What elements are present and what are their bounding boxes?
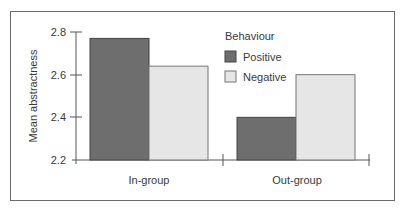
y-tick-label: 2.8 (51, 26, 66, 38)
bar-chart: 2.8 2.6 2.4 2.2 Mean abstractness In-gro… (0, 0, 414, 213)
bars (90, 38, 355, 160)
bar-out-group-positive (237, 117, 296, 160)
y-tick-label: 2.4 (51, 111, 66, 123)
y-axis-label: Mean abstractness (27, 49, 39, 142)
y-tick-label: 2.6 (51, 69, 66, 81)
legend: Behaviour Positive Negative (225, 30, 286, 83)
bar-out-group-negative (296, 75, 355, 160)
legend-title: Behaviour (225, 30, 275, 42)
bar-in-group-positive (90, 38, 149, 160)
legend-label-positive: Positive (243, 51, 282, 63)
legend-label-negative: Negative (243, 71, 286, 83)
legend-swatch-positive (225, 51, 236, 62)
bar-in-group-negative (149, 66, 208, 160)
legend-swatch-negative (225, 71, 236, 82)
category-label-in-group: In-group (129, 174, 170, 186)
category-label-out-group: Out-group (272, 174, 322, 186)
y-ticks: 2.8 2.6 2.4 2.2 (51, 26, 82, 166)
y-tick-label: 2.2 (51, 154, 66, 166)
